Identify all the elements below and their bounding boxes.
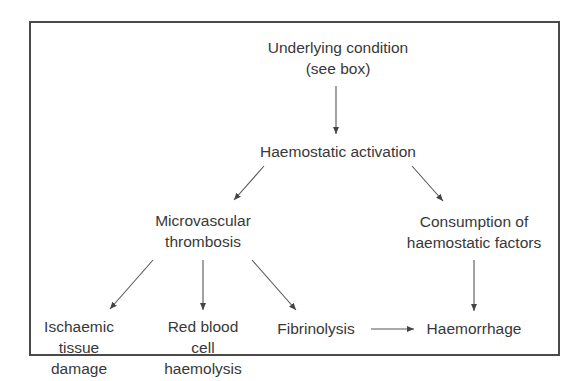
node-underlying-condition: Underlying condition (see box) — [268, 37, 408, 79]
node-red-blood-cell-haemolysis: Red blood cell haemolysis — [164, 316, 242, 379]
node-text-line: Haemorrhage — [427, 318, 522, 339]
arrow-activation-to-thrombosis — [234, 166, 264, 200]
arrow-thrombosis-to-fibrinolysis — [252, 260, 296, 310]
node-text-line: thrombosis — [155, 231, 251, 252]
node-text-line: cell — [164, 337, 242, 358]
node-text-line: Fibrinolysis — [277, 318, 355, 339]
node-text-line: Ischaemic — [44, 316, 114, 337]
node-fibrinolysis: Fibrinolysis — [277, 318, 355, 339]
arrow-thrombosis-to-ischaemic — [110, 260, 153, 309]
node-text-line: haemolysis — [164, 358, 242, 379]
node-text-line: tissue — [44, 337, 114, 358]
arrow-activation-to-consumption — [412, 166, 443, 201]
node-ischaemic-tissue-damage: Ischaemic tissue damage — [44, 316, 114, 379]
node-text-line: (see box) — [268, 58, 408, 79]
node-text-line: damage — [44, 358, 114, 379]
node-text-line: Consumption of — [407, 211, 541, 232]
node-text-line: Underlying condition — [268, 37, 408, 58]
node-consumption-of-factors: Consumption of haemostatic factors — [407, 211, 541, 253]
node-microvascular-thrombosis: Microvascular thrombosis — [155, 210, 251, 252]
node-text-line: Haemostatic activation — [260, 141, 416, 162]
node-text-line: Microvascular — [155, 210, 251, 231]
node-text-line: Red blood — [164, 316, 242, 337]
node-haemorrhage: Haemorrhage — [427, 318, 522, 339]
node-haemostatic-activation: Haemostatic activation — [260, 141, 416, 162]
node-text-line: haemostatic factors — [407, 232, 541, 253]
